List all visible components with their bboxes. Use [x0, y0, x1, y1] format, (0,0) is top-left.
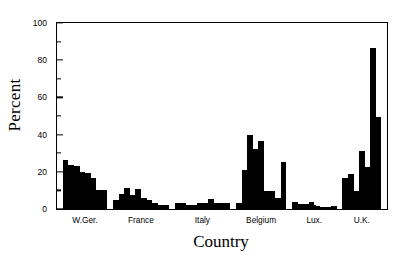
y-tick-label: 100: [33, 18, 47, 28]
y-tick-label: 40: [38, 130, 47, 140]
x-tick-label: U.K.: [354, 215, 370, 225]
x-tick-mark: [362, 205, 363, 209]
x-tick-label: Belgium: [246, 215, 276, 225]
x-tick-label: Italy: [195, 215, 210, 225]
y-axis-title-text: Percent: [5, 78, 25, 131]
x-tick-mark: [314, 205, 315, 209]
bars-layer: [57, 23, 387, 209]
x-tick-mark: [85, 205, 86, 209]
x-tick-label: France: [128, 215, 154, 225]
bar: [225, 203, 231, 210]
x-tick-label: W.Ger.: [72, 215, 97, 225]
x-axis-title: Country: [56, 232, 386, 252]
bar: [163, 205, 169, 209]
y-tick-label: 20: [38, 167, 47, 177]
y-tick-label: 80: [38, 55, 47, 65]
y-tick-label: 60: [38, 92, 47, 102]
x-tick-mark: [202, 205, 203, 209]
bar: [331, 206, 337, 209]
y-axis-title: Percent: [2, 0, 28, 210]
bar: [102, 190, 108, 209]
chart-figure: Percent 020406080100 W.Ger.FranceItalyBe…: [0, 0, 410, 270]
plot-area: 020406080100 W.Ger.FranceItalyBelgiumLux…: [56, 22, 388, 210]
y-tick-label: 0: [42, 204, 47, 214]
x-tick-mark: [261, 205, 262, 209]
bar: [376, 117, 382, 209]
bar: [281, 162, 287, 209]
x-tick-mark: [141, 205, 142, 209]
x-tick-label: Lux.: [306, 215, 322, 225]
